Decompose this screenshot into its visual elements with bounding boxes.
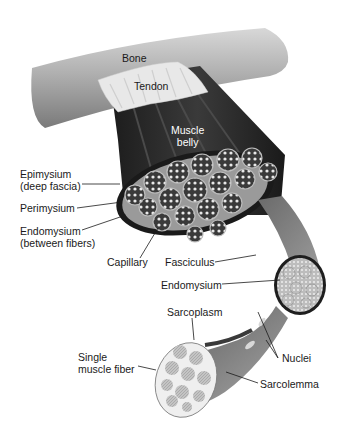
label-endomysium-between-fibers: Endomysium (between fibers) (20, 225, 95, 249)
label-epimysium: Epimysium (deep fascia) (20, 168, 81, 192)
fasciculus (258, 196, 326, 315)
label-endomysium: Endomysium (161, 279, 222, 291)
label-tendon: Tendon (134, 80, 168, 92)
label-sarcolemma: Sarcolemma (260, 378, 319, 390)
label-nuclei: Nuclei (282, 352, 311, 364)
label-perimysium: Perimysium (20, 202, 75, 214)
label-capillary: Capillary (107, 256, 148, 268)
label-muscle-belly: Muscle belly (171, 124, 204, 148)
single-muscle-fiber (146, 306, 288, 424)
label-single-muscle-fiber: Single muscle fiber (78, 351, 135, 375)
label-fasciculus: Fasciculus (165, 256, 215, 268)
label-bone: Bone (122, 52, 147, 64)
label-sarcoplasm: Sarcoplasm (167, 306, 222, 318)
